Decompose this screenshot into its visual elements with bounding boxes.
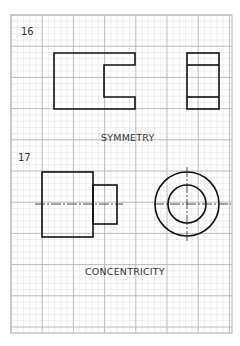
caption-symmetry: SYMMETRY — [101, 132, 154, 143]
exercise-number-16: 16 — [21, 26, 34, 37]
c-shape-front-view — [54, 53, 135, 109]
exercise-number-17: 17 — [18, 152, 31, 163]
concentric-circles-view — [154, 167, 231, 243]
caption-concentricity: CONCENTRICITY — [85, 266, 165, 277]
exercise-16: 16 SYMMETRY — [21, 26, 219, 143]
graph-paper-sheet: 16 SYMMETRY 17 CONCENTRICITY — [0, 0, 240, 346]
